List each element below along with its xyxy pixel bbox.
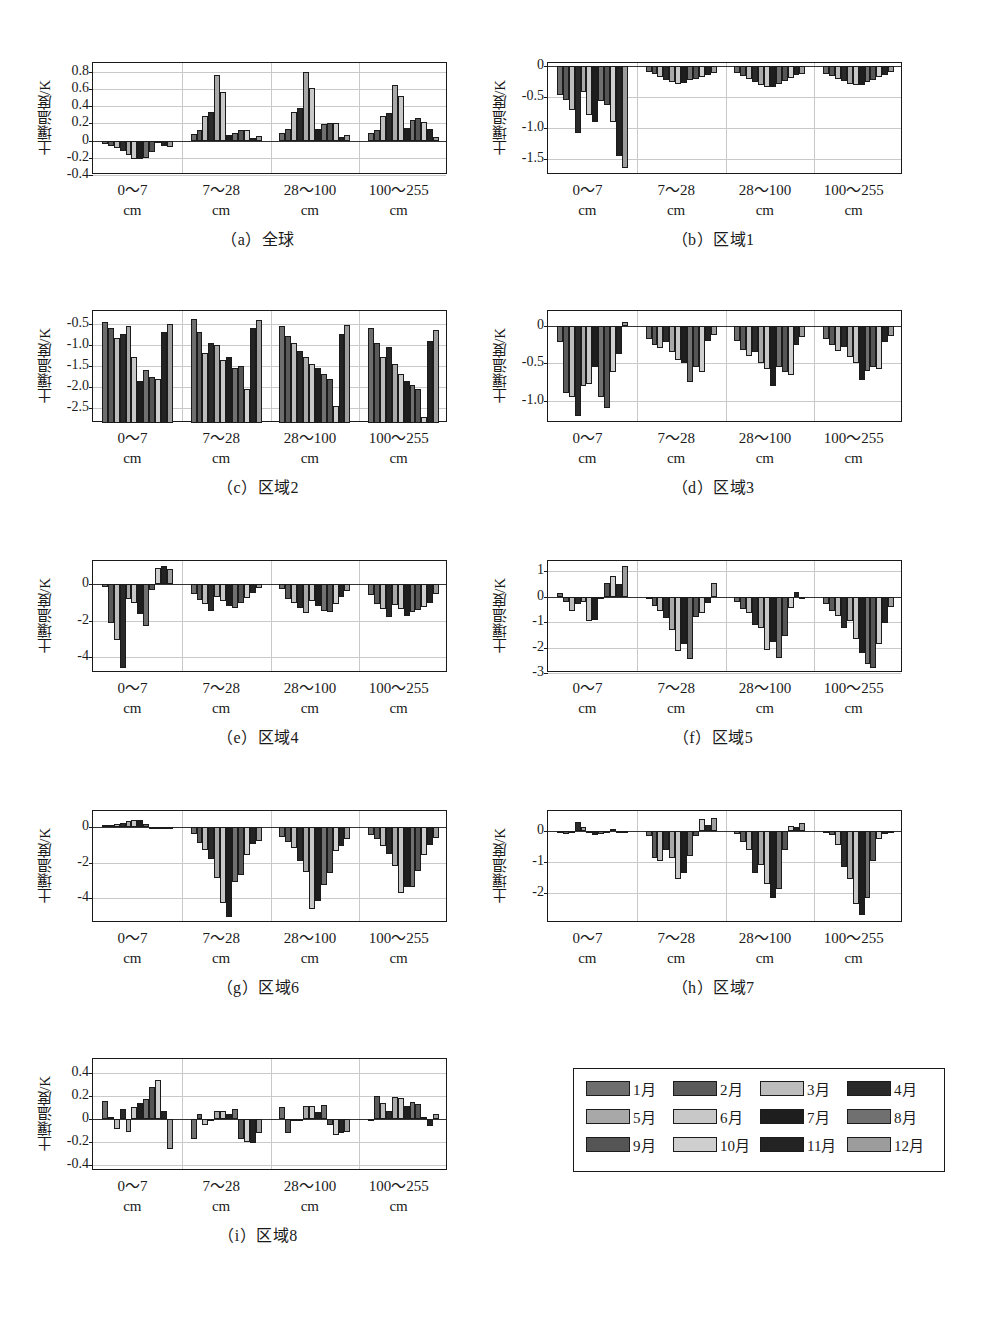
x-tick-range: 7～28	[202, 678, 240, 698]
y-tick-label: -0.4	[67, 1157, 89, 1171]
y-tick-label: 0	[82, 576, 89, 590]
bar	[368, 1119, 374, 1121]
bar	[888, 326, 894, 336]
x-tick-range: 0～7	[572, 928, 602, 948]
bar	[622, 66, 628, 168]
legend-item[interactable]: 8月	[847, 1106, 934, 1127]
panel-caption: （g）区域6	[34, 974, 482, 998]
figure-canvas: 土壤温度/K0.80.60.40.20-0.2-0.40～7cm7～28cm28…	[0, 0, 995, 1334]
legend-label: 8月	[894, 1106, 917, 1127]
legend-item[interactable]: 12月	[847, 1134, 934, 1155]
y-axis-ticks: 0.40.20-0.2-0.4	[56, 1058, 92, 1170]
x-tick-unit: cm	[657, 698, 695, 718]
bar	[167, 827, 173, 829]
x-tick-label: 0～7cm	[117, 1176, 147, 1217]
bar	[888, 831, 894, 833]
x-tick-label: 28～100cm	[284, 678, 337, 719]
plot-area	[92, 1058, 447, 1170]
x-tick-unit: cm	[369, 1196, 429, 1216]
x-tick-label: 0～7cm	[572, 428, 602, 469]
x-tick-range: 0～7	[572, 180, 602, 200]
x-tick-label: 100～255cm	[824, 180, 884, 221]
legend-swatch	[760, 1081, 804, 1096]
y-tick-label: -1.0	[522, 120, 544, 134]
y-axis-label: 土壤温度/K	[489, 310, 510, 424]
bar	[598, 597, 604, 600]
y-tick-label: -1.5	[522, 151, 544, 165]
x-tick-range: 28～100	[284, 1176, 337, 1196]
x-tick-range: 7～28	[657, 428, 695, 448]
x-tick-range: 28～100	[284, 678, 337, 698]
y-tick-label: -2	[532, 640, 544, 654]
x-tick-unit: cm	[117, 200, 147, 220]
bar	[711, 818, 717, 831]
bar	[344, 1119, 350, 1132]
bar	[616, 326, 622, 354]
legend-swatch	[847, 1081, 891, 1096]
bar	[782, 831, 788, 850]
bar	[279, 1107, 285, 1119]
y-tick-label: -1	[532, 854, 544, 868]
x-tick-range: 7～28	[202, 180, 240, 200]
legend-item[interactable]: 9月	[586, 1134, 673, 1155]
x-tick-label: 7～28cm	[202, 428, 240, 469]
x-tick-unit: cm	[117, 1196, 147, 1216]
x-tick-unit: cm	[202, 1196, 240, 1216]
legend-swatch	[586, 1081, 630, 1096]
bar	[433, 330, 439, 423]
x-tick-unit: cm	[284, 698, 337, 718]
bar-series	[93, 311, 446, 421]
legend-item[interactable]: 7月	[760, 1106, 847, 1127]
x-tick-unit: cm	[739, 948, 792, 968]
x-tick-range: 100～255	[824, 428, 884, 448]
x-tick-range: 28～100	[739, 180, 792, 200]
bar	[427, 1119, 433, 1126]
legend-item[interactable]: 6月	[673, 1106, 760, 1127]
legend-swatch	[586, 1137, 630, 1152]
y-axis-label: 土壤温度/K	[34, 310, 55, 424]
y-tick-label: 0.4	[72, 98, 90, 112]
bar-series	[548, 63, 901, 173]
legend-item[interactable]: 3月	[760, 1078, 847, 1099]
chart-panel-d: 土壤温度/K0-0.5-1.00～7cm7～28cm28～100cm100～25…	[489, 310, 937, 498]
bar	[256, 584, 262, 588]
x-axis-labels: 0～7cm7～28cm28～100cm100～255cm	[489, 176, 937, 222]
y-tick-label: 0.6	[72, 81, 90, 95]
x-tick-range: 7～28	[202, 428, 240, 448]
chart-panel-a: 土壤温度/K0.80.60.40.20-0.2-0.40～7cm7～28cm28…	[34, 62, 482, 250]
bar	[433, 137, 439, 140]
legend-label: 1月	[633, 1078, 656, 1099]
legend-label: 9月	[633, 1134, 656, 1155]
chart-panel-c: 土壤温度/K-0.5-1.0-1.5-2.0-2.50～7cm7～28cm28～…	[34, 310, 482, 498]
bar-series	[93, 561, 446, 671]
x-tick-unit: cm	[202, 948, 240, 968]
y-axis-ticks: 0-2-4	[56, 560, 92, 672]
legend-item[interactable]: 11月	[760, 1134, 847, 1155]
legend-item[interactable]: 10月	[673, 1134, 760, 1155]
chart-panel-e: 土壤温度/K0-2-40～7cm7～28cm28～100cm100～255cm（…	[34, 560, 482, 748]
legend-item[interactable]: 1月	[586, 1078, 673, 1099]
bar	[711, 326, 717, 335]
bar	[256, 827, 262, 841]
x-tick-label: 100～255cm	[369, 678, 429, 719]
bar	[622, 566, 628, 597]
panel-caption: （a）全球	[34, 226, 482, 250]
legend-item[interactable]: 5月	[586, 1106, 673, 1127]
x-tick-label: 28～100cm	[284, 428, 337, 469]
x-tick-range: 28～100	[739, 928, 792, 948]
x-tick-unit: cm	[657, 200, 695, 220]
y-tick-label: 0.2	[72, 1088, 90, 1102]
panel-caption: （c）区域2	[34, 474, 482, 498]
x-tick-range: 100～255	[824, 180, 884, 200]
legend-item[interactable]: 2月	[673, 1078, 760, 1099]
plot-area	[547, 560, 902, 672]
legend-row: 9月10月11月12月	[586, 1134, 934, 1155]
x-tick-unit: cm	[369, 948, 429, 968]
plot-area	[547, 310, 902, 422]
legend-label: 7月	[807, 1106, 830, 1127]
bar	[297, 1119, 303, 1121]
x-tick-range: 100～255	[369, 1176, 429, 1196]
legend-item[interactable]: 4月	[847, 1078, 934, 1099]
bar	[220, 92, 226, 140]
x-axis-labels: 0～7cm7～28cm28～100cm100～255cm	[34, 674, 482, 720]
